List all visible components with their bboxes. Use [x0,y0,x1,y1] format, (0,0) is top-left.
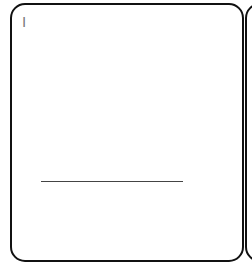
card-divider-line [41,181,183,182]
card-stage: I [0,0,252,266]
card[interactable]: I [10,3,244,262]
card-next-partial[interactable] [245,3,252,262]
card-label: I [22,13,26,30]
